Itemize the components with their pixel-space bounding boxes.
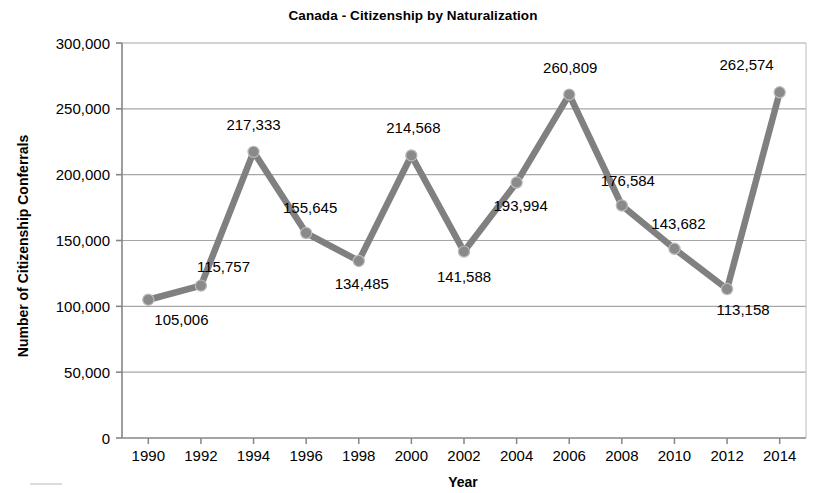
data-point-label: 143,682 — [651, 215, 705, 232]
x-tick-label: 1994 — [237, 447, 270, 464]
y-axis-title: Number of Citizenship Conferrals — [15, 135, 31, 358]
x-axis-title: Year — [448, 474, 478, 490]
data-point-marker — [564, 89, 575, 100]
line-chart: Canada - Citizenship by Naturalization N… — [0, 0, 827, 493]
data-point-marker — [774, 87, 785, 98]
data-point-marker — [616, 200, 627, 211]
x-tick-label: 1998 — [342, 447, 375, 464]
x-tick-label: 2000 — [395, 447, 428, 464]
chart-background — [0, 0, 827, 493]
chart-container: Canada - Citizenship by Naturalization N… — [0, 0, 827, 493]
y-tick-label: 300,000 — [56, 35, 110, 52]
y-tick-label: 0 — [102, 430, 110, 447]
x-tick-label: 2014 — [763, 447, 796, 464]
data-point-marker — [143, 294, 154, 305]
y-tick-label: 150,000 — [56, 232, 110, 249]
data-point-marker — [406, 150, 417, 161]
y-tick-label: 50,000 — [64, 364, 110, 381]
data-point-label: 262,574 — [719, 56, 773, 73]
data-point-label: 193,994 — [494, 197, 548, 214]
x-tick-label: 2012 — [710, 447, 743, 464]
x-tick-label: 1990 — [132, 447, 165, 464]
x-tick-label: 1992 — [184, 447, 217, 464]
x-tick-label: 2002 — [447, 447, 480, 464]
data-point-label: 134,485 — [335, 275, 389, 292]
data-point-marker — [301, 227, 312, 238]
data-point-label: 176,584 — [601, 172, 655, 189]
x-tick-label: 2004 — [500, 447, 533, 464]
data-point-marker — [511, 177, 522, 188]
data-point-label: 260,809 — [543, 59, 597, 76]
data-point-label: 214,568 — [386, 119, 440, 136]
x-tick-label: 1996 — [289, 447, 322, 464]
data-point-label: 217,333 — [226, 116, 280, 133]
data-point-label: 141,588 — [437, 268, 491, 285]
data-point-marker — [248, 146, 259, 157]
data-point-marker — [353, 255, 364, 266]
data-point-label: 155,645 — [283, 199, 337, 216]
x-tick-label: 2006 — [553, 447, 586, 464]
data-point-label: 105,006 — [154, 311, 208, 328]
data-point-marker — [669, 243, 680, 254]
data-point-marker — [195, 280, 206, 291]
data-point-label: 115,757 — [197, 258, 250, 275]
y-tick-label: 250,000 — [56, 100, 110, 117]
x-tick-label: 2008 — [605, 447, 638, 464]
data-point-marker — [721, 283, 732, 294]
data-point-marker — [458, 246, 469, 257]
y-tick-label: 100,000 — [56, 298, 110, 315]
chart-title: Canada - Citizenship by Naturalization — [288, 8, 537, 23]
y-tick-label: 200,000 — [56, 166, 110, 183]
x-tick-label: 2010 — [658, 447, 691, 464]
data-point-label: 113,158 — [717, 301, 770, 318]
